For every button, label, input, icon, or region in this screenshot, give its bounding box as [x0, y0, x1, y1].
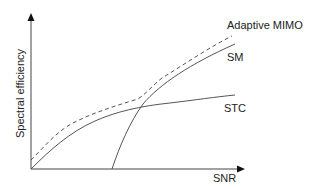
- y-axis-arrow-icon: [28, 13, 35, 21]
- sm-label: SM: [227, 51, 244, 63]
- adaptive-mimo-label: Adaptive MIMO: [227, 19, 303, 31]
- spectral-efficiency-chart: Adaptive MIMO SM STC SNR Spectral effici…: [0, 0, 313, 189]
- y-axis-label: Spectral efficiency: [14, 48, 26, 138]
- x-axis-label: SNR: [213, 172, 236, 184]
- stc-curve: [31, 95, 235, 169]
- sm-curve: [112, 44, 235, 169]
- stc-label: STC: [224, 102, 246, 114]
- x-axis-arrow-icon: [237, 166, 245, 173]
